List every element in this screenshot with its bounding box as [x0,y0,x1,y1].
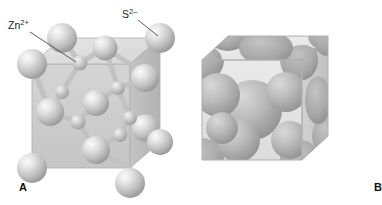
label-zn-charge: 2+ [20,18,29,27]
panel-b-space-filling: B [178,0,346,205]
panel-b-graphic [178,0,346,205]
label-s-symbol: S [122,8,129,20]
panel-letter-a: A [19,182,27,193]
label-s-anion: S2– [122,9,137,20]
label-zn-symbol: Zn [8,19,20,31]
label-zn-cation: Zn2+ [8,20,29,31]
label-s-charge: 2– [129,7,137,16]
panel-a-graphic [0,0,180,205]
panel-letter-b: B [374,182,382,193]
panel-a-ball-and-stick: Zn2+ S2– A [0,0,180,205]
